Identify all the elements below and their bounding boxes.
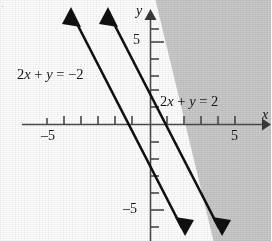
- x-axis-label: x: [262, 108, 268, 122]
- y-axis-label: y: [136, 4, 142, 18]
- y-axis-arrowhead: [145, 9, 157, 20]
- y-tick-label-neg5: –5: [123, 202, 137, 216]
- shade-polygon: [156, 0, 272, 241]
- eq-right-plus: +: [174, 93, 189, 109]
- eq-left-plus: +: [31, 66, 46, 82]
- eq-left-rhs: = −2: [53, 66, 84, 82]
- graph-figure: 2x + y = −2 2x + y = 2 y x –5 5 5 –5 ·: [0, 0, 271, 241]
- shaded-half-plane: [156, 0, 272, 241]
- equation-label-right: 2x + y = 2: [160, 94, 218, 109]
- line-neg2-arrow-top: [62, 7, 81, 27]
- y-tick-label-pos5: 5: [133, 33, 140, 47]
- scan-corner-artifact: ·: [1, 1, 4, 11]
- eq-right-rhs: = 2: [196, 93, 219, 109]
- line-neg2-arrow-bottom: [175, 217, 194, 236]
- x-tick-label-pos5: 5: [231, 129, 238, 143]
- line-pos2-arrow-top: [99, 7, 118, 27]
- x-tick-label-neg5: –5: [41, 129, 55, 143]
- equation-label-left: 2x + y = −2: [17, 67, 83, 82]
